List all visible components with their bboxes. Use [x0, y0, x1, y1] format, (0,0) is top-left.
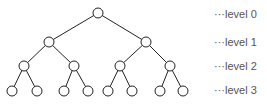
tree-node [127, 86, 137, 96]
level-0-label: ···level 0 [214, 8, 257, 20]
tree-node [178, 86, 188, 96]
tree-node [93, 8, 103, 18]
tree-node [103, 86, 113, 96]
tree-node [141, 37, 151, 47]
tree-node [32, 86, 42, 96]
tree-node [7, 86, 17, 96]
level-1-label: ···level 1 [214, 36, 257, 48]
tree-node [83, 86, 93, 96]
tree-node [165, 61, 175, 71]
tree-node [59, 86, 69, 96]
level-2-label: ···level 2 [214, 60, 257, 72]
level-3-label: ···level 3 [214, 84, 257, 96]
tree-edge [98, 13, 146, 42]
tree-node [69, 61, 79, 71]
tree-edge [49, 13, 98, 42]
tree-node [155, 86, 165, 96]
tree-node [44, 37, 54, 47]
tree-node [19, 61, 29, 71]
tree-node [115, 61, 125, 71]
